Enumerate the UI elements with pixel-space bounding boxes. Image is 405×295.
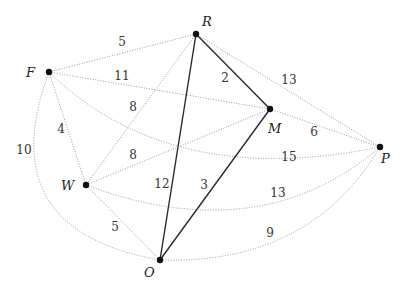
node-label-w: W — [61, 178, 76, 193]
edges-layer — [34, 34, 380, 260]
node-f — [46, 69, 52, 75]
node-r — [193, 31, 199, 37]
edge-f-p — [49, 72, 380, 158]
edge-weight-m-o: 3 — [200, 178, 208, 192]
edge-weight-r-w: 8 — [129, 100, 137, 114]
edge-weight-f-w: 4 — [57, 122, 65, 136]
node-w — [83, 182, 89, 188]
edge-m-o — [160, 109, 270, 260]
node-p — [377, 144, 383, 150]
edge-weight-r-o: 12 — [154, 177, 169, 191]
edge-weight-r-p: 13 — [281, 73, 296, 87]
edge-weight-m-w: 8 — [129, 148, 137, 162]
edge-r-m — [196, 34, 270, 109]
node-label-f: F — [25, 65, 36, 80]
edge-weight-o-p: 9 — [266, 226, 274, 240]
edge-weight-f-r: 5 — [118, 35, 126, 49]
edge-r-p — [196, 34, 380, 147]
edge-w-o — [86, 185, 160, 260]
edge-weight-w-o: 5 — [111, 220, 119, 234]
edge-f-o — [34, 72, 160, 260]
edge-weight-f-p: 15 — [281, 150, 296, 164]
node-label-p: P — [380, 151, 390, 166]
edge-weight-f-o: 10 — [16, 143, 31, 157]
node-labels-layer: RFMPWO — [25, 14, 390, 280]
node-m — [267, 106, 273, 112]
weighted-graph: 511154102138126835139 RFMPWO — [0, 0, 405, 295]
node-label-m: M — [267, 121, 282, 136]
node-o — [157, 257, 163, 263]
edge-weight-f-m: 11 — [114, 69, 129, 83]
edge-weights-layer: 511154102138126835139 — [16, 35, 317, 240]
node-label-r: R — [201, 14, 212, 29]
nodes-layer — [46, 31, 383, 263]
edge-r-w — [86, 34, 196, 185]
edge-f-w — [49, 72, 86, 185]
edge-weight-r-m: 2 — [221, 71, 229, 85]
edge-f-m — [49, 72, 270, 109]
edge-m-p — [270, 109, 380, 147]
edge-weight-w-p: 13 — [270, 186, 285, 200]
edge-weight-m-p: 6 — [310, 125, 318, 139]
node-label-o: O — [144, 265, 155, 280]
